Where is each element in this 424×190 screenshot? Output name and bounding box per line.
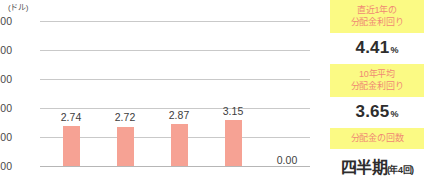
- stat-label-line2: 分配金利回り: [330, 80, 424, 92]
- gridline: [40, 21, 310, 22]
- stat-label-line1: 10年平均: [359, 69, 395, 79]
- stat-value-number: 4.41: [356, 38, 390, 57]
- y-axis-tick-label: 0.00: [0, 160, 12, 172]
- bar-2022: [117, 127, 134, 166]
- stat-label-10y-average-yield: 10年平均 分配金利回り: [330, 64, 424, 97]
- y-axis-unit-label: (ドル): [8, 1, 28, 12]
- bar-value-2023: 2.87: [157, 109, 201, 121]
- y-axis-tick-label: 2.00: [0, 131, 12, 143]
- bar-value-2024: 3.15: [211, 105, 255, 117]
- stat-block-10y-average-yield: 10年平均 分配金利回り 3.65%: [330, 64, 424, 128]
- stat-block-recent-1y-yield: 直近1年の 分配金利回り 4.41%: [330, 0, 424, 64]
- gridline: [40, 50, 310, 51]
- stat-value-unit: %: [390, 45, 398, 55]
- stat-label-line1: 直近1年の: [357, 5, 397, 15]
- stat-value-unit: (年4回): [387, 165, 414, 175]
- stat-label-recent-1y-yield: 直近1年の 分配金利回り: [330, 0, 424, 33]
- stat-value-text: 四半期: [341, 159, 388, 176]
- summary-stats-panel: 直近1年の 分配金利回り 4.41% 10年平均 分配金利回り 3.65% 分配…: [330, 0, 424, 190]
- stat-value-distribution-frequency: 四半期(年4回): [330, 149, 424, 184]
- y-axis-tick-label: 4.00: [0, 102, 12, 114]
- bar-value-2022: 2.72: [103, 111, 147, 123]
- bar-2023: [171, 124, 188, 166]
- plot-area: 2.74 2.72 2.87 3.15 0.00 2021 2022 2023 …: [40, 21, 310, 166]
- stat-label-distribution-frequency: 分配金の回数: [330, 128, 424, 149]
- y-axis-tick-label: 8.00: [0, 44, 12, 56]
- bar-chart: (ドル) 10.00 8.00 6.00 4.00 2.00 0.00 2.74…: [0, 0, 330, 190]
- stat-label-line2: 分配金利回り: [330, 16, 424, 28]
- distribution-yield-chart-panel: (ドル) 10.00 8.00 6.00 4.00 2.00 0.00 2.74…: [0, 0, 424, 190]
- bar-value-2021: 2.74: [49, 111, 93, 123]
- bar-2021: [63, 126, 80, 166]
- bar-value-2025: 0.00: [265, 154, 309, 166]
- stat-label-line1: 分配金の回数: [351, 133, 404, 143]
- axis-baseline: [40, 166, 310, 167]
- stat-value-unit: %: [390, 109, 398, 119]
- bar-2024: [225, 120, 242, 166]
- y-axis-tick-label: 6.00: [0, 73, 12, 85]
- stat-value-number: 3.65: [356, 102, 390, 121]
- stat-block-distribution-frequency: 分配金の回数 四半期(年4回): [330, 128, 424, 184]
- stat-value-recent-1y-yield: 4.41%: [330, 33, 424, 64]
- y-axis-tick-label: 10.00: [0, 15, 12, 27]
- gridline: [40, 79, 310, 80]
- stat-value-10y-average-yield: 3.65%: [330, 97, 424, 128]
